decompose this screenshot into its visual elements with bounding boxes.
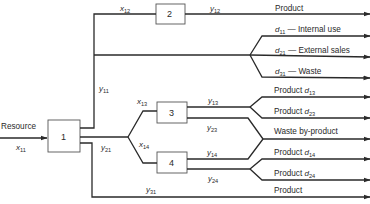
flow-y23: y23 [187, 118, 263, 139]
node-2: 2 [156, 4, 185, 24]
svg-text:x13: x13 [136, 97, 147, 107]
svg-text:2: 2 [167, 9, 172, 19]
node-1: 1 [48, 120, 80, 152]
svg-text:y12: y12 [209, 4, 220, 14]
svg-text:y31: y31 [145, 185, 156, 195]
flow-y14: y14 [187, 139, 263, 159]
resource-input: Resource x11 [0, 122, 47, 153]
svg-text:y23: y23 [206, 123, 217, 133]
output-d21: d21 — External sales [275, 46, 350, 56]
output-product-2: Product [275, 4, 304, 13]
x11-label: x11 [15, 143, 26, 153]
svg-text:x14: x14 [138, 140, 149, 150]
svg-text:y24: y24 [207, 174, 218, 184]
flow-x12-label: x12 [119, 4, 130, 14]
output-d24: Product d24 [274, 169, 315, 179]
svg-text:y13: y13 [207, 96, 218, 106]
node-3: 3 [157, 102, 187, 123]
flow-diagram: Resource x11 1 2 3 4 y11 x12 y12 y2 [0, 0, 370, 204]
svg-text:y11: y11 [98, 84, 109, 94]
output-labels: Product d11 — Internal use d21 — Externa… [274, 4, 350, 195]
svg-text:1: 1 [61, 132, 66, 142]
output-d11: d11 — Internal use [275, 25, 341, 35]
output-d14: Product d14 [274, 148, 315, 158]
svg-text:4: 4 [169, 158, 174, 168]
flow-x14: x14 [128, 137, 157, 163]
output-waste-by-product: Waste by-product [274, 127, 339, 136]
svg-text:x12: x12 [119, 4, 130, 14]
flow-y31: y31 [80, 143, 370, 197]
flow-x13: x13 [128, 97, 157, 137]
node-4: 4 [157, 152, 187, 173]
output-d23: Product d23 [274, 107, 315, 117]
output-product-31: Product [274, 186, 303, 195]
resource-label: Resource [1, 122, 36, 131]
svg-text:3: 3 [169, 108, 174, 118]
flow-y21: y21 [80, 137, 128, 153]
output-d31: d31 — Waste [275, 67, 322, 77]
svg-text:y21: y21 [100, 143, 111, 153]
output-d13: Product d13 [274, 86, 315, 96]
svg-text:y14: y14 [206, 148, 217, 158]
